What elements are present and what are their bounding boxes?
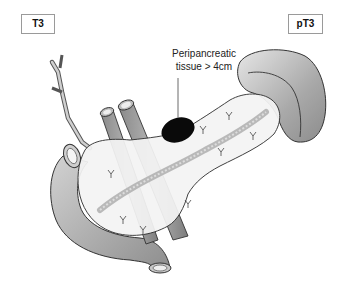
pancreas-diagram [0,0,342,288]
annotation-line-2: tissue > 4cm [150,60,258,73]
pathologic-stage-label: pT3 [288,14,323,34]
tumor-annotation: Peripancreatic tissue > 4cm [150,47,258,73]
bile-duct [52,55,90,148]
clinical-stage-label: T3 [21,14,55,34]
annotation-line-1: Peripancreatic [150,47,258,60]
